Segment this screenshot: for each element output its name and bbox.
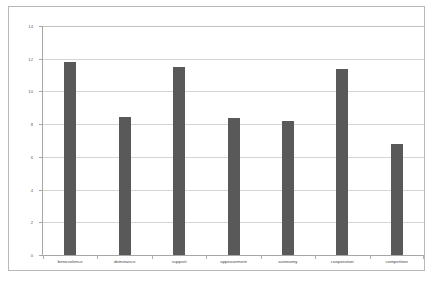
- y-axis-tick-label: 4: [31, 188, 33, 192]
- gridline: [43, 59, 424, 60]
- y-axis-tick: 8: [39, 124, 43, 125]
- x-axis-tick: [206, 255, 207, 259]
- y-axis-tick: 14: [39, 26, 43, 27]
- y-axis-tick: 6: [39, 157, 43, 158]
- y-axis-tick-label: 12: [28, 58, 33, 62]
- x-axis-category-label: appeasement: [220, 260, 247, 264]
- bar: [64, 62, 76, 255]
- y-axis-tick-label: 10: [28, 90, 33, 94]
- y-axis-tick-label: 0: [31, 254, 33, 258]
- x-axis-tick: [97, 255, 98, 259]
- x-axis-tick: [423, 255, 424, 259]
- y-axis-tick-label: 2: [31, 221, 33, 225]
- x-axis-tick: [152, 255, 153, 259]
- x-axis-category-label: support: [172, 260, 187, 264]
- x-axis-tick: [315, 255, 316, 259]
- x-axis-tick: [370, 255, 371, 259]
- x-axis-category-label: autonomy: [278, 260, 297, 264]
- gridline: [43, 91, 424, 92]
- x-axis-category-label: cooperation: [331, 260, 354, 264]
- x-axis-tick: [43, 255, 44, 259]
- x-axis-tick: [261, 255, 262, 259]
- y-axis-tick-label: 14: [28, 25, 33, 29]
- y-axis-tick: 12: [39, 59, 43, 60]
- x-axis-category-label: benevolence: [58, 260, 83, 264]
- bar: [391, 144, 403, 255]
- bar: [228, 118, 240, 255]
- y-axis-tick: 2: [39, 222, 43, 223]
- bar: [336, 69, 348, 255]
- x-axis-category-label: dominance: [114, 260, 135, 264]
- y-axis-tick-label: 6: [31, 156, 33, 160]
- y-axis-tick-label: 8: [31, 123, 33, 127]
- gridline: [43, 26, 424, 27]
- bar: [173, 67, 185, 255]
- chart-frame: 02468101214 benevolencedominancesupporta…: [8, 6, 425, 271]
- x-axis-category-label: competition: [386, 260, 408, 264]
- bar: [119, 117, 131, 255]
- y-axis-tick: 10: [39, 91, 43, 92]
- y-axis-tick: 4: [39, 190, 43, 191]
- bar: [282, 121, 294, 255]
- chart-plot-area: 02468101214 benevolencedominancesupporta…: [42, 26, 424, 256]
